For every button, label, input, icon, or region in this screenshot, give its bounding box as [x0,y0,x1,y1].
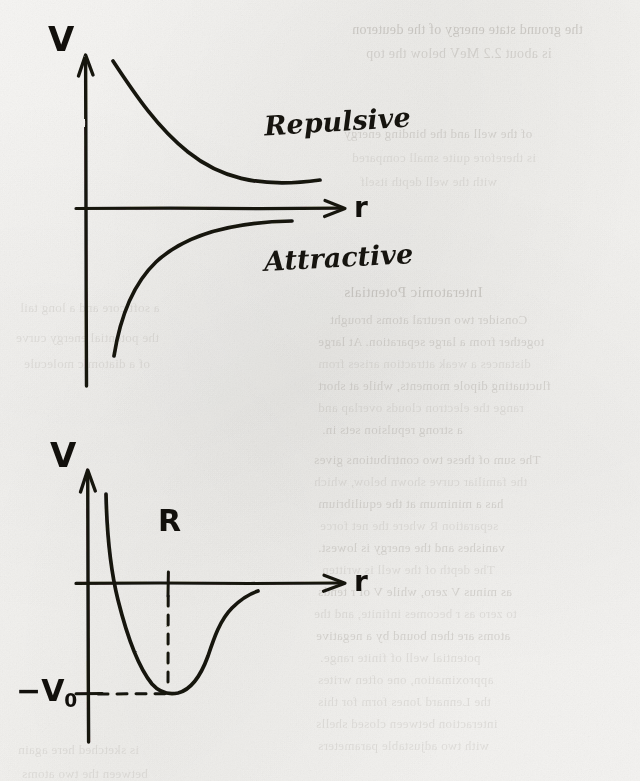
well-depth-symbol: V [41,673,64,708]
attractive-curve [114,221,292,356]
bottom-chart-y-axis [88,474,89,742]
well-depth-label: −V0 [16,676,77,710]
bottom-chart-x-axis-label: r [354,568,368,596]
top-chart-x-axis-label: r [354,194,368,222]
well-depth-minus-sign: − [16,673,41,708]
top-chart-y-axis-label: V [48,22,74,56]
attractive-curve-label: Attractive [263,240,413,275]
potential-well-curve [106,494,258,694]
equilibrium-distance-label: R [158,506,181,536]
bottom-chart-y-axis-label: V [50,438,76,472]
top-chart-y-axis [86,58,87,386]
notebook-page: the ground state energy of the deuteroni… [0,0,640,781]
bottom-chart-axes [76,470,345,742]
well-depth-subscript: 0 [64,690,77,711]
